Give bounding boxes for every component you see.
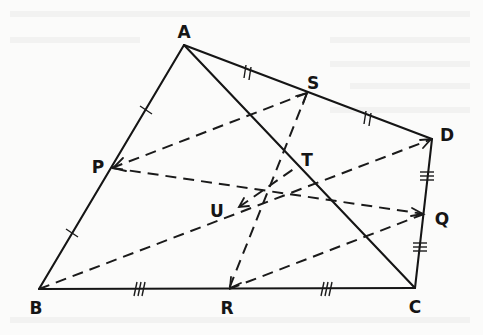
ticks-sd (364, 111, 371, 126)
edge-bc (39, 288, 415, 289)
geometry-diagram: A B C D P Q R S T U (0, 0, 483, 335)
dashed-rq (229, 214, 424, 289)
label-s: S (307, 73, 319, 93)
dashed-ut (239, 166, 298, 207)
label-d: D (440, 125, 454, 145)
ticks-br (134, 282, 145, 296)
label-a: A (177, 22, 191, 42)
ticks-as (244, 65, 251, 80)
diagonal-ac (184, 45, 415, 288)
edge-ab (39, 45, 184, 289)
arrowheads (113, 93, 431, 288)
label-r: R (220, 298, 233, 318)
dashed-pq (112, 168, 424, 214)
label-t: T (301, 150, 313, 170)
label-b: B (30, 298, 43, 318)
arrowhead-at-d (420, 139, 431, 148)
dashed-ps (112, 93, 307, 168)
label-u: U (210, 201, 224, 221)
label-q: Q (435, 209, 449, 229)
tick-pb (66, 229, 78, 237)
ticks-rc (321, 282, 332, 296)
equal-length-marks (66, 65, 434, 296)
label-c: C (409, 297, 421, 317)
label-p: P (92, 157, 104, 177)
